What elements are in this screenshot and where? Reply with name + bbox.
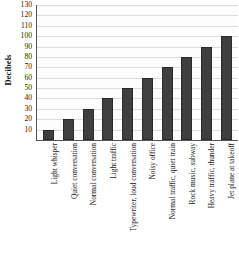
- x-axis-tick: Jet plane at takeoff: [228, 143, 235, 199]
- bar-slot: [157, 5, 177, 140]
- bar: [201, 47, 212, 140]
- bar: [142, 78, 153, 140]
- bar: [162, 67, 173, 140]
- bar-slot: [39, 5, 59, 140]
- x-label-slot: Light traffic: [97, 143, 117, 258]
- bar: [63, 119, 74, 140]
- x-label-slot: Noisy office: [137, 143, 157, 258]
- bar-slot: [78, 5, 98, 140]
- bar: [83, 109, 94, 140]
- decibel-bar-chart: Decibels 130120110100908070605040302010 …: [0, 0, 239, 262]
- bar-slot: [197, 5, 217, 140]
- y-axis-tick: 120: [21, 12, 32, 20]
- bar: [102, 98, 113, 140]
- x-axis-tick-labels: Light whisperQuiet conversationNormal co…: [36, 143, 237, 258]
- x-label-slot: Quiet conversation: [58, 143, 78, 258]
- x-label-slot: Jet plane at takeoff: [215, 143, 235, 258]
- y-axis-tick: 130: [21, 1, 32, 9]
- x-label-slot: Normal traffic, quiet train: [156, 143, 176, 258]
- x-label-slot: Normal conversation: [77, 143, 97, 258]
- x-label-slot: Rock music, subway: [176, 143, 196, 258]
- y-axis-tick: 50: [24, 84, 32, 92]
- y-axis-tick: 40: [24, 95, 32, 103]
- y-axis-tick-labels: 130120110100908070605040302010: [13, 0, 34, 140]
- plot-area: [36, 5, 238, 141]
- y-axis-tick: 90: [24, 43, 32, 51]
- bar-slot: [59, 5, 79, 140]
- bar-slot: [177, 5, 197, 140]
- bar-slot: [138, 5, 158, 140]
- bar: [221, 36, 232, 140]
- bar-slot: [98, 5, 118, 140]
- y-axis-tick: 80: [24, 53, 32, 61]
- y-axis-tick: 30: [24, 105, 32, 113]
- x-label-slot: Heavy traffic, thunder: [196, 143, 216, 258]
- bar: [181, 57, 192, 140]
- y-axis-tick: 20: [24, 115, 32, 123]
- y-axis-tick: 10: [24, 126, 32, 134]
- y-axis-tick: 100: [21, 32, 32, 40]
- y-axis-tick: 70: [24, 64, 32, 72]
- x-label-slot: Light whisper: [38, 143, 58, 258]
- bar-slot: [118, 5, 138, 140]
- bar: [122, 88, 133, 140]
- bar-series: [37, 5, 238, 140]
- y-axis-tick: 60: [24, 74, 32, 82]
- y-axis-tick: 110: [21, 22, 32, 30]
- x-label-slot: Typewriter, loud conversation: [117, 143, 137, 258]
- bar: [43, 130, 54, 140]
- y-axis-title-label: Decibels: [2, 54, 12, 85]
- y-axis-title: Decibels: [0, 0, 14, 140]
- bar-slot: [216, 5, 236, 140]
